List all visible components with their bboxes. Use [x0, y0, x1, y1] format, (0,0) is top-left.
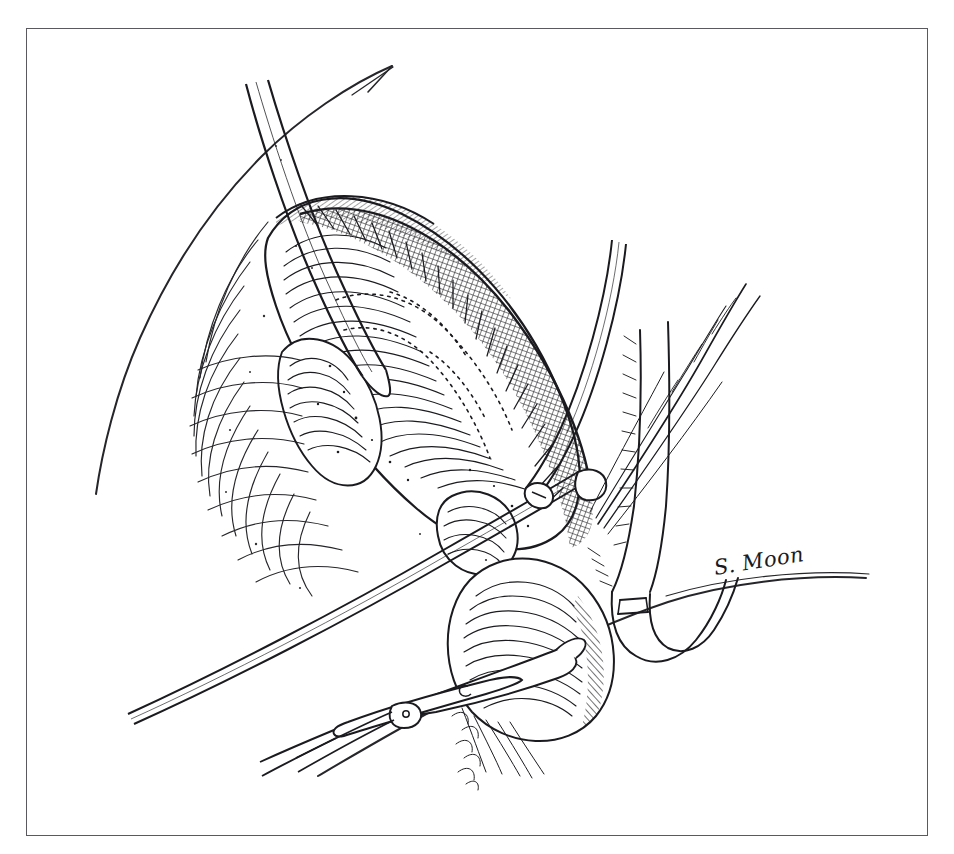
illustration-plate: S. Moon [0, 0, 954, 854]
pedicle-tissue-lower [448, 558, 614, 741]
vascular-branches-right [588, 284, 760, 662]
dissected-tissue-mass [232, 178, 601, 628]
clip-marker-center [525, 483, 553, 508]
surgical-illustration-artwork [0, 0, 954, 854]
